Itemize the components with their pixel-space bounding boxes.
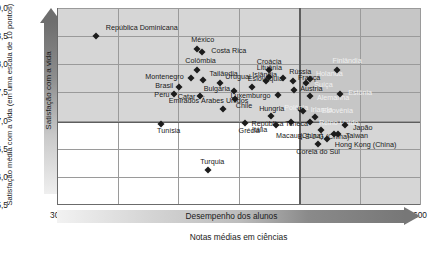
y-axis-tick-label: 8,5 [0, 36, 8, 46]
student-performance-arrow: Desempenho dos alunos [57, 207, 420, 225]
plot-axis-lines [57, 8, 420, 205]
arrow-head-right-icon [404, 207, 420, 225]
life-satisfaction-arrow-label: Satisfação com a vida [44, 31, 53, 151]
life-satisfaction-vs-science-scatter-chart: Satisfação média com a vida (em uma esca… [0, 0, 433, 258]
student-performance-arrow-label: Desempenho dos alunos [57, 211, 406, 221]
y-axis-tick-label: 5,5 [0, 205, 8, 215]
y-axis-tick-label: 6,0 [0, 177, 8, 187]
x-axis-title: Notas médias em ciências [57, 232, 420, 242]
gridline-vertical [420, 8, 421, 205]
y-axis-tick-label: 7,0 [0, 121, 8, 131]
y-axis-tick-label: 8,0 [0, 64, 8, 74]
y-axis-tick-label: 7,5 [0, 92, 8, 102]
y-axis-tick-label: 6,5 [0, 149, 8, 159]
y-axis-tick-label: 9,0 [0, 8, 8, 18]
